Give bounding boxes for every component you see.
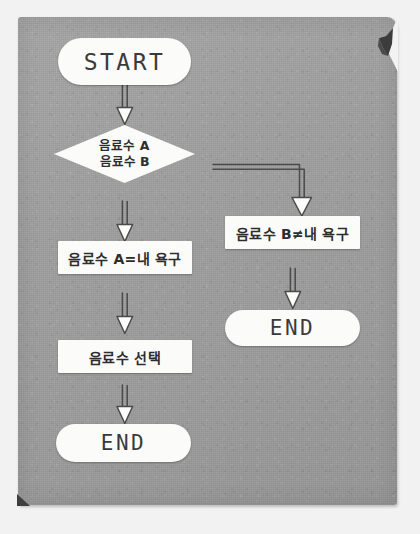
arrow-select-to-end-left xyxy=(114,384,136,426)
torn-corner-bottom-left-icon xyxy=(17,486,43,506)
arrow-start-to-decision xyxy=(114,83,136,127)
arrow-decision-to-drink-a xyxy=(114,200,136,244)
paper-sheet: START 음료수 A 음료수 B 음료수 A=내 욕구 음료수 B≠내 욕구 … xyxy=(18,17,397,505)
node-start-label: START xyxy=(84,49,166,75)
torn-corner-top-right-icon xyxy=(352,16,398,72)
node-start[interactable]: START xyxy=(58,38,191,85)
arrow-decision-to-drink-b-elbow xyxy=(206,143,316,219)
node-drink-a-yes[interactable]: 음료수 A=내 욕구 xyxy=(58,241,192,274)
arrow-drink-b-to-end-right xyxy=(282,267,304,311)
node-decision-label: 음료수 A 음료수 B xyxy=(99,138,149,169)
node-end-right-label: END xyxy=(270,316,315,340)
node-end-left[interactable]: END xyxy=(56,424,191,462)
node-select-drink-label: 음료수 선택 xyxy=(89,347,161,367)
node-select-drink[interactable]: 음료수 선택 xyxy=(58,340,192,373)
node-drink-b-no[interactable]: 음료수 B≠내 욕구 xyxy=(225,216,360,249)
node-decision[interactable]: 음료수 A 음료수 B xyxy=(53,124,196,184)
node-drink-b-no-label: 음료수 B≠내 욕구 xyxy=(236,223,349,243)
node-drink-a-yes-label: 음료수 A=내 욕구 xyxy=(68,248,181,268)
arrow-drink-a-to-select xyxy=(114,292,136,336)
screenshot-canvas: START 음료수 A 음료수 B 음료수 A=내 욕구 음료수 B≠내 욕구 … xyxy=(0,0,420,534)
node-end-left-label: END xyxy=(101,431,146,455)
node-end-right[interactable]: END xyxy=(225,310,360,346)
